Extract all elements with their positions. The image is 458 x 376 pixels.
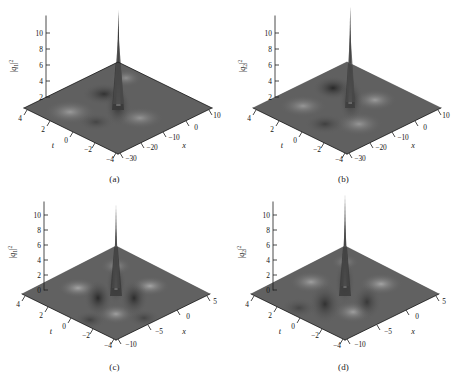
z-tick-label: 10 — [265, 29, 273, 38]
t-tick-label: 2 — [39, 311, 43, 320]
z-tick-label: 0 — [266, 286, 270, 295]
t-tick-label: −4 — [333, 341, 341, 350]
panel-b-x-axis-label: x — [410, 141, 415, 150]
panel-b-z-axis: 2 4 6 8 10 |q2|2 — [237, 16, 279, 102]
panel-b-t-axis-label: t — [281, 141, 284, 150]
t-tick-label: 0 — [62, 322, 66, 331]
z-tick-label: 10 — [34, 211, 42, 220]
t-tick-label: 4 — [16, 300, 20, 309]
z-tick-label: 10 — [263, 211, 271, 220]
z-tick-label: 8 — [266, 226, 270, 235]
x-tick-label: 0 — [186, 312, 190, 321]
panel-d: 0 2 4 6 8 10 |q2|2 4 — [229, 188, 458, 376]
panel-d-t-axis-label: t — [279, 327, 282, 336]
panel-c-x-axis-label: x — [181, 327, 186, 336]
t-tick-label: −2 — [84, 145, 92, 154]
x-tick-label: 5 — [442, 297, 446, 306]
t-tick-label: 0 — [291, 322, 295, 331]
panel-a-z-axis-label: |q1|2 — [8, 59, 18, 72]
panel-d-z-axis-label: |q2|2 — [236, 245, 246, 258]
panel-a-z-axis: 2 4 6 8 10 |q1|2 — [8, 16, 50, 102]
z-tick-label: 10 — [36, 29, 44, 38]
z-tick-label: 6 — [39, 61, 43, 70]
x-tick-label: −20 — [146, 143, 158, 152]
x-tick-label: 5 — [213, 297, 217, 306]
z-tick-label: 4 — [266, 256, 270, 265]
z-tick-label: 6 — [268, 61, 272, 70]
z-tick-label: 6 — [266, 241, 270, 250]
panel-d-x-axis-label: x — [410, 327, 415, 336]
t-tick-label: 4 — [247, 114, 251, 123]
z-tick-label: 2 — [37, 271, 41, 280]
x-tick-label: 0 — [415, 312, 419, 321]
t-tick-label: 2 — [268, 311, 272, 320]
panel-c-z-axis: 0 2 4 6 8 10 |q1|2 — [7, 202, 48, 295]
t-tick-label: 0 — [293, 136, 297, 145]
panel-c-z-axis-label: |q1|2 — [7, 245, 17, 258]
z-tick-label: 2 — [266, 271, 270, 280]
panel-a-t-axis-label: t — [52, 141, 55, 150]
panel-c-t-axis-label: t — [50, 327, 53, 336]
x-tick-label: −10 — [168, 133, 180, 142]
x-tick-label: 10 — [213, 111, 221, 120]
t-tick-label: 2 — [270, 125, 274, 134]
x-tick-label: 0 — [423, 123, 427, 132]
x-tick-label: −10 — [397, 133, 409, 142]
z-tick-label: 8 — [268, 45, 272, 54]
panel-c-caption: (c) — [0, 362, 229, 372]
t-tick-label: −2 — [313, 145, 321, 154]
t-tick-label: −2 — [82, 331, 90, 340]
surface-d — [251, 194, 439, 340]
panel-a-plot: 2 4 6 8 10 |q1|2 4 — [0, 0, 229, 162]
t-tick-label: 4 — [18, 114, 22, 123]
x-tick-label: −30 — [354, 154, 366, 163]
t-tick-label: 4 — [245, 300, 249, 309]
panel-b: 2 4 6 8 10 |q2|2 4 2 — [229, 0, 458, 188]
z-tick-label: 8 — [37, 226, 41, 235]
panel-d-z-axis: 0 2 4 6 8 10 |q2|2 — [236, 202, 277, 295]
x-tick-label: 0 — [194, 123, 198, 132]
z-tick-label: 2 — [39, 93, 43, 102]
z-tick-label: 6 — [37, 241, 41, 250]
x-tick-label: −5 — [155, 327, 163, 336]
panel-b-caption: (b) — [229, 174, 458, 184]
z-tick-label: 4 — [268, 77, 272, 86]
panel-b-plot: 2 4 6 8 10 |q2|2 4 2 — [229, 0, 458, 162]
z-tick-label: 8 — [39, 45, 43, 54]
t-tick-label: −2 — [311, 331, 319, 340]
x-tick-label: −20 — [375, 143, 387, 152]
panel-a-caption: (a) — [0, 174, 229, 184]
panel-a: 2 4 6 8 10 |q1|2 4 — [0, 0, 229, 188]
panel-a-x-axis-label: x — [181, 141, 186, 150]
z-tick-label: 2 — [268, 93, 272, 102]
z-tick-label: 4 — [39, 77, 43, 86]
panel-c-plot: 0 2 4 6 8 10 |q1|2 4 — [0, 188, 229, 350]
x-tick-label: −5 — [384, 327, 392, 336]
x-tick-label: 10 — [442, 111, 450, 120]
x-tick-label: −10 — [354, 340, 366, 349]
panel-b-z-axis-label: |q2|2 — [237, 59, 247, 72]
t-tick-label: 0 — [64, 136, 68, 145]
panel-d-caption: (d) — [229, 362, 458, 372]
z-tick-label: 0 — [37, 286, 41, 295]
x-tick-label: −30 — [125, 154, 137, 163]
panel-c: 0 2 4 6 8 10 |q1|2 4 — [0, 188, 229, 376]
z-tick-label: 4 — [37, 256, 41, 265]
x-tick-label: −10 — [125, 340, 137, 349]
t-tick-label: −4 — [104, 341, 112, 350]
t-tick-label: −4 — [106, 155, 114, 164]
surface-b — [253, 6, 441, 154]
figure-2x2-surface-plots: 2 4 6 8 10 |q1|2 4 — [0, 0, 458, 376]
t-tick-label: −4 — [335, 155, 343, 164]
panel-d-plot: 0 2 4 6 8 10 |q2|2 4 — [229, 188, 458, 350]
surface-c — [22, 204, 210, 340]
t-tick-label: 2 — [41, 125, 45, 134]
surface-a — [24, 10, 212, 154]
